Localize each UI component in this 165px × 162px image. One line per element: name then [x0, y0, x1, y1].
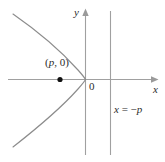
x-axis — [8, 76, 159, 82]
x-axis-label: x — [153, 84, 158, 95]
parabola-figure: y x 0 (p, 0) x = −p — [0, 0, 165, 162]
y-axis-arrowhead — [82, 9, 88, 17]
y-axis — [82, 9, 88, 156]
directrix-label: x = −p — [114, 104, 142, 115]
focus-label-rest: , 0) — [54, 56, 69, 68]
focus-point-marker — [57, 77, 62, 82]
parabola-curve — [13, 14, 86, 147]
directrix-label-equals: = − — [119, 103, 137, 115]
x-axis-arrowhead — [151, 76, 159, 82]
directrix-label-p: p — [137, 103, 143, 115]
origin-label: 0 — [89, 81, 95, 92]
y-axis-label: y — [74, 7, 79, 18]
focus-point-label: (p, 0) — [45, 57, 69, 68]
figure-canvas — [0, 0, 165, 162]
